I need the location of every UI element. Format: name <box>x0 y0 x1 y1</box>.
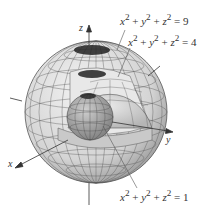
nested-spheres-diagram <box>0 0 203 212</box>
x-axis-outer <box>10 98 22 101</box>
label-sphere-radius-1: x2 + y2 + z2 = 1 <box>120 188 188 203</box>
x-axis-label: x <box>8 158 12 169</box>
y-arrow-icon <box>166 129 174 134</box>
y-axis-label: y <box>166 134 170 145</box>
z-arrow-icon <box>87 25 92 32</box>
z-axis-label: z <box>79 22 83 33</box>
label-sphere-radius-2: x2 + y2 + z2 = 4 <box>128 33 196 48</box>
x-arrow-icon <box>15 162 23 168</box>
label-sphere-radius-3: x2 + y2 + z2 = 9 <box>120 12 188 27</box>
